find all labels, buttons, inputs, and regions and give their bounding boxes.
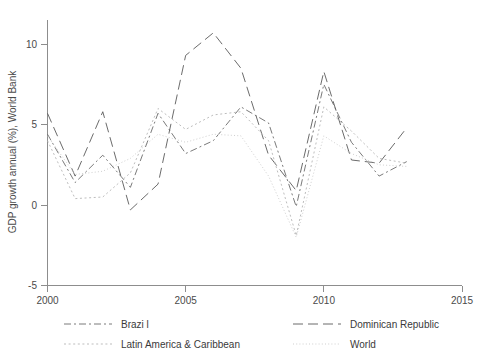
- legend-label-1: Dominican Republic: [350, 319, 439, 330]
- x-tick-label: 2005: [175, 295, 198, 306]
- y-axis-title: GDP growth annual (%), World Bank: [7, 70, 18, 233]
- series-line-3: [48, 134, 407, 237]
- legend-label-3: World: [350, 339, 376, 350]
- legend-label-0: Brazi l: [121, 319, 149, 330]
- x-axis-ticks: 2000200520102015: [36, 286, 473, 307]
- y-tick-label: -5: [28, 280, 37, 291]
- y-axis-ticks: -50510: [26, 39, 48, 291]
- chart-canvas: -50510 2000200520102015 GDP growth annua…: [0, 0, 487, 356]
- chart-legend: Brazi lDominican RepublicLatin America &…: [64, 319, 439, 350]
- legend-label-2: Latin America & Caribbean: [121, 339, 240, 350]
- y-tick-label: 10: [26, 39, 38, 50]
- x-tick-label: 2010: [313, 295, 336, 306]
- x-tick-label: 2000: [36, 295, 59, 306]
- y-tick-label: 5: [31, 119, 37, 130]
- series-line-0: [48, 84, 407, 206]
- series-line-1: [48, 33, 407, 210]
- gdp-growth-line-chart: -50510 2000200520102015 GDP growth annua…: [0, 0, 487, 356]
- y-tick-label: 0: [31, 200, 37, 211]
- x-tick-label: 2015: [451, 295, 474, 306]
- data-series-group: [48, 33, 407, 237]
